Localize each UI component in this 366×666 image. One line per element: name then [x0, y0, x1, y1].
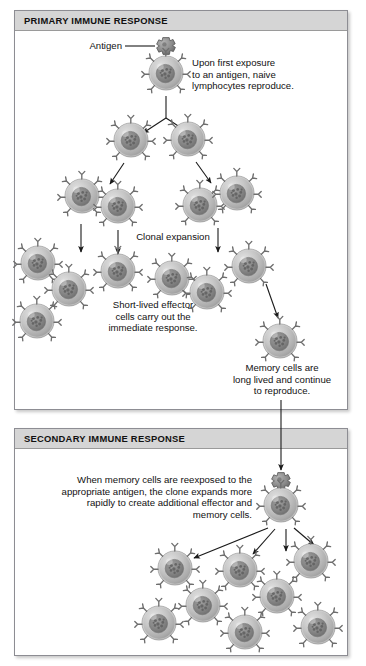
cell-clone-1: [58, 171, 106, 215]
cell-naive-lymphocyte: [142, 48, 190, 92]
cell-secondary-8: [294, 602, 342, 646]
cell-clone-2: [94, 181, 142, 225]
arrow-divide-left: [110, 163, 124, 184]
arrow-to-memory-cell: [266, 284, 278, 318]
cell-secondary-5: [179, 580, 227, 624]
clonal-expansion-label: Clonal expansion: [118, 231, 228, 243]
figure-canvas: PRIMARY IMMUNE RESPONSE SECONDARY IMMUNE…: [0, 0, 366, 666]
cell-memory: [256, 316, 304, 360]
cell-daughter-left: [107, 115, 155, 159]
arrow-secondary-1: [194, 528, 268, 558]
cell-effector-7: [225, 241, 273, 285]
cell-secondary-4: [253, 571, 301, 615]
secondary-description: When memory cells are reexposed to the a…: [28, 474, 252, 520]
cell-clone-3: [176, 180, 224, 224]
cell-reexposed-memory: [257, 480, 305, 524]
cell-effector-4: [94, 246, 142, 290]
memory-caption: Memory cells are long lived and continue…: [218, 362, 346, 397]
effector-caption: Short-lived effector cells carry out the…: [95, 299, 211, 334]
antigen-label: Antigen: [58, 40, 122, 52]
cell-effector-3: [13, 296, 61, 340]
cell-secondary-6: [135, 598, 183, 642]
cell-secondary-2: [216, 545, 264, 589]
cell-effector-5: [148, 253, 196, 297]
cell-secondary-1: [151, 543, 199, 587]
cell-secondary-3: [287, 536, 335, 580]
arrow-divide-right: [196, 162, 211, 183]
first-exposure-caption: Upon first exposure to an antigen, naive…: [192, 57, 322, 92]
